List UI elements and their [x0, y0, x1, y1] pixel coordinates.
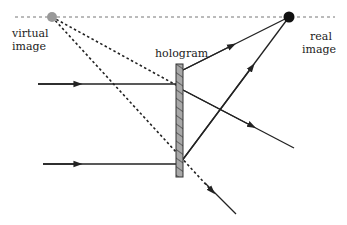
hologram-diagram	[0, 0, 347, 225]
real-label-line1: real	[306, 30, 336, 43]
virtual-image-point	[47, 12, 57, 22]
real-label-line2: image	[302, 43, 336, 56]
virtual-label-line2: image	[12, 40, 49, 53]
virtual-image-label: virtual image	[12, 27, 49, 53]
virtual-label-line1: virtual	[12, 27, 49, 40]
real-image-label: real image	[306, 30, 336, 56]
hologram-label: hologram	[155, 47, 208, 60]
real-image-point	[284, 12, 295, 23]
hologram-plate	[176, 64, 183, 177]
